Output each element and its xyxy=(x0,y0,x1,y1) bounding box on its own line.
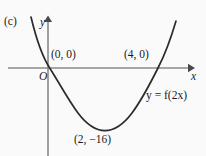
y-axis-label: y xyxy=(40,17,45,29)
curve-equation-label: y = f(2x) xyxy=(146,90,187,102)
x-axis-label: x xyxy=(191,71,196,83)
parabola-curve xyxy=(31,17,176,131)
point-label-vertex: (2, −16) xyxy=(74,134,111,146)
part-label: (c) xyxy=(4,16,17,28)
origin-label: O xyxy=(39,71,47,83)
graph-figure: (c) y x O (0, 0) (4, 0) (2, −16) y = f(2… xyxy=(0,0,206,156)
y-axis-arrow-icon xyxy=(44,16,52,23)
point-label-right-root: (4, 0) xyxy=(124,49,149,61)
point-label-origin: (0, 0) xyxy=(51,49,76,61)
